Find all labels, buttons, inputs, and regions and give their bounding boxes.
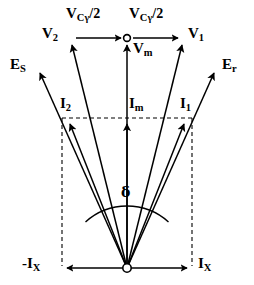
label-v1-sub: 1: [199, 32, 204, 43]
label-ix-negative-sub: X: [33, 262, 41, 273]
label-vm-sub: m: [144, 47, 153, 58]
label-vm: Vm: [133, 41, 153, 58]
label-vc-left-suffix: /2: [89, 6, 100, 21]
label-im: Im: [129, 96, 144, 113]
label-ix-negative: -IX: [22, 256, 40, 273]
label-i1-sub: 1: [186, 102, 191, 113]
label-vc-left-sub: Cγ: [77, 12, 90, 23]
vector-Es-line: [40, 73, 127, 268]
vector-V1-line: [127, 45, 182, 268]
origin-node-circle: [123, 264, 131, 272]
phasor-diagram-figure: V_Cγ/2 VCγ/2 V_Cγ/2 VCγ/2 V2 V1 Vm ES Er…: [0, 0, 254, 285]
vector-I1-line: [127, 124, 184, 268]
label-i2: I2: [60, 96, 71, 113]
vector-fan: [40, 45, 214, 268]
label-ix-positive-sub: X: [204, 262, 212, 273]
vector-I2-line: [70, 124, 127, 268]
phasor-diagram-canvas: [0, 0, 254, 285]
label-es: ES: [10, 57, 26, 74]
label-ix-positive: IX: [198, 256, 211, 273]
label-er-sub: r: [232, 63, 237, 74]
label-vc-right-sub: Cγ: [140, 12, 153, 23]
label-v2: V2: [42, 26, 58, 43]
label-vc-right-suffix: /2: [152, 6, 163, 21]
label-i1: I1: [180, 96, 191, 113]
label-vc-right: V_Cγ/2 VCγ/2: [129, 6, 163, 23]
vector-V2-line: [72, 45, 127, 268]
label-v2-sub: 2: [53, 32, 58, 43]
label-im-sub: m: [135, 102, 144, 113]
label-delta: δ: [121, 185, 130, 199]
top-center-node-circle: [124, 35, 131, 42]
label-v1: V1: [188, 26, 204, 43]
label-er: Er: [222, 57, 237, 74]
label-vc-left: V_Cγ/2 VCγ/2: [66, 6, 100, 23]
label-i2-sub: 2: [66, 102, 71, 113]
label-es-sub: S: [20, 63, 26, 74]
